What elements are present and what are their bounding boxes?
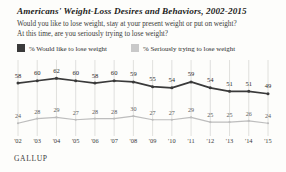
chart-card: Americans' Weight-Loss Desires and Behav… [0, 0, 286, 172]
legend-item-seriously-trying: % Seriously trying to lose weight [131, 44, 235, 52]
data-point [151, 85, 154, 88]
data-point [267, 122, 269, 124]
x-axis-tick-label: '02 [14, 137, 22, 144]
data-point [132, 115, 134, 117]
data-point [17, 122, 19, 124]
x-axis-tick-label: '14 [245, 137, 253, 144]
data-point [94, 117, 96, 119]
data-label: 58 [15, 72, 22, 79]
data-label: 25 [207, 112, 213, 118]
data-label: 60 [72, 69, 79, 76]
data-point [247, 90, 250, 93]
x-axis-tick-label: '09 [149, 137, 157, 144]
data-label: 54 [207, 76, 214, 83]
x-axis-tick-label: '05 [72, 137, 80, 144]
data-point [74, 79, 77, 82]
x-axis-tick-label: '12 [207, 137, 215, 144]
data-label: 55 [149, 75, 156, 82]
data-label: 27 [169, 110, 175, 116]
x-axis-tick-label: '13 [226, 137, 234, 144]
legend-label-would-like: % Would like to lose weight [29, 45, 107, 52]
data-point [55, 116, 57, 118]
data-point [228, 121, 230, 123]
data-label: 27 [73, 110, 79, 116]
data-label: 59 [188, 70, 195, 77]
data-point [267, 92, 270, 95]
data-label: 62 [53, 67, 60, 74]
data-point [190, 80, 193, 83]
data-label: 29 [53, 107, 59, 113]
x-axis-tick-label: '04 [53, 137, 61, 144]
x-axis-tick-label: '06 [91, 137, 99, 144]
legend-swatch-dark-icon [17, 44, 25, 52]
x-axis-tick-label: '11 [187, 137, 194, 144]
subtitle-line-1: Would you like to lose weight, stay at y… [17, 20, 237, 28]
data-label: 60 [34, 69, 41, 76]
x-axis-tick-label: '08 [130, 137, 138, 144]
data-label: 59 [130, 70, 137, 77]
chart-legend: % Would like to lose weight % Seriously … [17, 44, 235, 52]
data-label: 28 [34, 109, 40, 115]
chart-plot-area: 5860626058605955545954515149242829272828… [10, 58, 276, 136]
data-point [17, 82, 20, 85]
data-label: 54 [169, 76, 176, 83]
data-point [93, 82, 96, 85]
data-label: 30 [130, 106, 136, 112]
divider [0, 148, 286, 149]
data-point [248, 120, 250, 122]
data-label: 25 [226, 112, 232, 118]
x-axis-tick-label: '10 [168, 137, 176, 144]
legend-item-would-like: % Would like to lose weight [17, 44, 107, 52]
data-label: 24 [15, 113, 21, 119]
data-point [132, 80, 135, 83]
data-point [36, 117, 38, 119]
page-title: Americans' Weight-Loss Desires and Behav… [17, 6, 247, 16]
data-label: 24 [265, 113, 271, 119]
data-point [228, 90, 231, 93]
data-point [113, 79, 116, 82]
data-point [36, 79, 39, 82]
data-label: 28 [92, 109, 98, 115]
data-point [152, 119, 154, 121]
x-axis-tick-label: '03 [33, 137, 41, 144]
data-point [75, 119, 77, 121]
subtitle-line-2: At this time, are you seriously trying t… [17, 30, 168, 38]
data-point [190, 116, 192, 118]
data-label: 28 [111, 109, 117, 115]
data-point [113, 117, 115, 119]
legend-label-seriously-trying: % Seriously trying to lose weight [143, 45, 235, 52]
data-point [209, 86, 212, 89]
data-point [55, 77, 58, 80]
data-label: 49 [265, 82, 272, 89]
data-point [170, 86, 173, 89]
data-label: 58 [92, 72, 99, 79]
data-label: 27 [150, 110, 156, 116]
brand-footer: GALLUP [14, 154, 48, 163]
x-axis-tick-label: '07 [110, 137, 118, 144]
x-axis-tick-label: '15 [264, 137, 272, 144]
data-label: 51 [245, 80, 252, 87]
data-label: 26 [246, 111, 252, 117]
data-point [209, 121, 211, 123]
data-label: 29 [188, 107, 194, 113]
legend-swatch-light-icon [131, 44, 139, 52]
line-chart-svg: 5860626058605955545954515149242829272828… [10, 58, 276, 136]
data-label: 51 [226, 80, 233, 87]
data-point [171, 119, 173, 121]
data-label: 60 [111, 69, 118, 76]
